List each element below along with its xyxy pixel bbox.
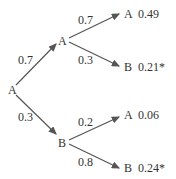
node-a: A <box>58 34 67 48</box>
probability-tree: A A B 0.7 0.3 0.7 0.3 0.2 0.8 A 0.49 B 0… <box>0 0 176 179</box>
prob-ab: 0.3 <box>78 53 93 67</box>
branch-aa <box>69 14 119 38</box>
prob-ba: 0.2 <box>78 115 93 129</box>
prob-aa: 0.7 <box>78 13 93 27</box>
branch-ba <box>69 117 119 140</box>
prob-bb: 0.8 <box>78 155 93 169</box>
leaf-ba-label: A <box>124 108 133 122</box>
leaf-ab-result: 0.21* <box>138 60 165 74</box>
leaf-aa-label: A <box>124 7 133 21</box>
branch-ab <box>69 42 119 66</box>
leaf-bb-label: B <box>124 161 132 175</box>
branches <box>16 14 119 168</box>
prob-root-b: 0.3 <box>18 110 33 124</box>
leaf-bb-result: 0.24* <box>138 161 165 175</box>
leaf-aa-result: 0.49 <box>138 7 159 21</box>
node-b: B <box>58 136 66 150</box>
leaf-ab-label: B <box>124 60 132 74</box>
leaf-ba-result: 0.06 <box>138 108 159 122</box>
root-node: A <box>8 83 17 97</box>
prob-root-a: 0.7 <box>18 53 33 67</box>
branch-bb <box>69 144 119 168</box>
